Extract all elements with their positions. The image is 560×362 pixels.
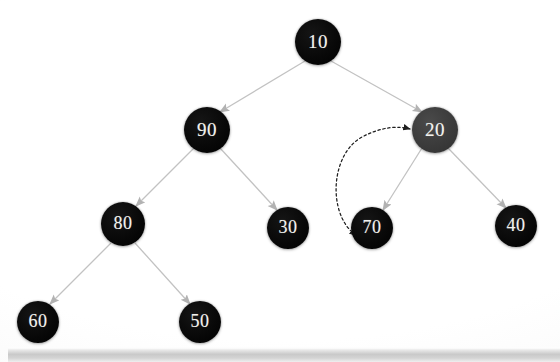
horizontal-scrollbar[interactable] [8, 347, 560, 362]
edge-20-70 [383, 148, 422, 210]
edge-80-50 [135, 243, 190, 304]
tree-node-10[interactable]: 10 [295, 19, 341, 65]
tree-node-20[interactable]: 20 [412, 107, 458, 153]
edge-90-80 [136, 148, 194, 206]
tree-node-label: 40 [507, 216, 526, 234]
edge-80-60 [50, 243, 111, 304]
tree-node-label: 50 [191, 312, 210, 330]
tree-node-90[interactable]: 90 [184, 107, 230, 153]
edge-10-90 [220, 61, 305, 112]
tree-node-label: 60 [29, 312, 48, 330]
diagram-viewport: 109020803070406050 [0, 0, 560, 362]
tree-node-80[interactable]: 80 [101, 202, 145, 246]
tree-node-label: 80 [114, 214, 133, 232]
tree-graph-canvas [0, 0, 560, 362]
tree-node-label: 30 [279, 218, 298, 236]
tree-node-70[interactable]: 70 [351, 207, 393, 249]
edge-90-30 [220, 148, 277, 210]
tree-node-label: 70 [363, 218, 382, 236]
edge-10-20 [331, 61, 422, 112]
tree-node-60[interactable]: 60 [17, 301, 59, 343]
edge-20-40 [448, 148, 506, 208]
tree-node-30[interactable]: 30 [267, 207, 309, 249]
tree-node-label: 90 [197, 120, 217, 139]
tree-node-label: 20 [425, 120, 445, 139]
tree-node-40[interactable]: 40 [495, 205, 537, 247]
tree-node-50[interactable]: 50 [179, 301, 221, 343]
edge-layer [50, 61, 506, 304]
tree-node-label: 10 [308, 32, 328, 51]
